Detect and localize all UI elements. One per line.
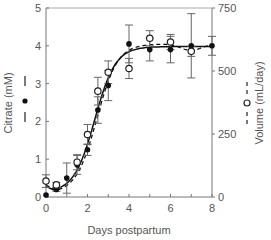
volume-point bbox=[43, 178, 49, 184]
y-left-tick-label: 5 bbox=[35, 2, 41, 14]
y-right-tick-label: 500 bbox=[218, 65, 236, 77]
volume-point bbox=[147, 35, 153, 41]
error-bars bbox=[42, 14, 216, 194]
citrate-point bbox=[126, 41, 132, 47]
y-left-tick-label: 0 bbox=[35, 191, 41, 203]
axis-ticks: 024680123450250500750 bbox=[35, 2, 236, 214]
volume-point bbox=[188, 48, 194, 54]
legend-marker-volume bbox=[244, 82, 250, 124]
volume-point bbox=[105, 69, 111, 75]
citrate-point bbox=[95, 107, 101, 113]
citrate-point bbox=[64, 175, 70, 181]
x-tick-label: 2 bbox=[84, 202, 90, 214]
y-right-axis-label: Volume (mL/day) bbox=[253, 61, 265, 144]
y-left-tick-label: 1 bbox=[35, 153, 41, 165]
volume-point bbox=[167, 39, 173, 45]
volume-point bbox=[126, 65, 132, 71]
y-left-tick-label: 2 bbox=[35, 115, 41, 127]
citrate-point bbox=[209, 43, 215, 49]
citrate-volume-chart: 024680123450250500750 Days postpartum Ci… bbox=[0, 0, 271, 240]
citrate-point bbox=[168, 47, 174, 53]
x-tick-label: 0 bbox=[43, 202, 49, 214]
volume-point bbox=[95, 88, 101, 94]
volume-point bbox=[53, 182, 59, 188]
y-right-tick-label: 750 bbox=[218, 2, 236, 14]
citrate-point bbox=[43, 192, 49, 198]
volume-point bbox=[74, 159, 80, 165]
y-right-label-group: Volume (mL/day) bbox=[244, 61, 265, 144]
citrate-point bbox=[147, 47, 153, 53]
y-left-label-group: Citrate (mM) bbox=[2, 72, 28, 133]
x-tick-label: 4 bbox=[126, 202, 132, 214]
x-tick-label: 8 bbox=[209, 202, 215, 214]
y-right-tick-label: 250 bbox=[218, 128, 236, 140]
x-tick-label: 6 bbox=[167, 202, 173, 214]
x-axis-label: Days postpartum bbox=[87, 224, 170, 236]
y-right-tick-label: 0 bbox=[218, 191, 224, 203]
citrate-point bbox=[105, 83, 111, 89]
y-left-tick-label: 3 bbox=[35, 78, 41, 90]
y-left-tick-label: 4 bbox=[35, 40, 41, 52]
legend-marker-citrate bbox=[22, 76, 27, 122]
citrate-point bbox=[85, 147, 91, 153]
y-left-axis-label: Citrate (mM) bbox=[2, 72, 14, 133]
volume-point bbox=[84, 131, 90, 137]
